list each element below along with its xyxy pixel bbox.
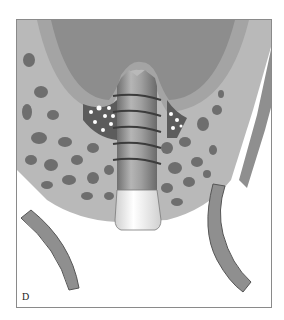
panel-label: D <box>22 291 29 302</box>
diagram-frame: D <box>16 19 272 308</box>
root-right <box>208 184 251 292</box>
implant <box>113 70 161 230</box>
root-left <box>21 210 79 290</box>
implant-collar <box>115 190 161 230</box>
implant-diagram <box>17 20 272 308</box>
